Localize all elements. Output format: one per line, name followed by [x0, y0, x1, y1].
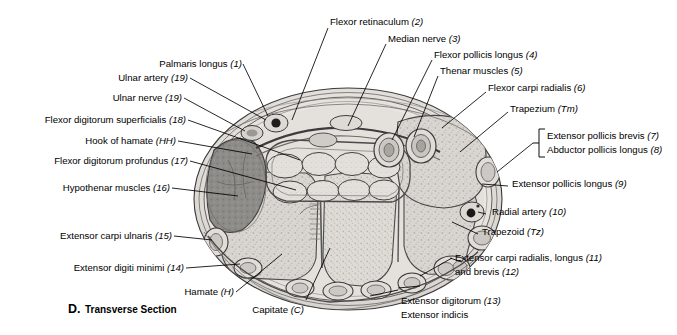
label-ulnar-artery[interactable]: Ulnar artery (19) — [0, 72, 188, 83]
label-trapezium[interactable]: Trapezium (Tm) — [510, 103, 578, 114]
caption-letter: D. — [68, 302, 81, 316]
label-capitate[interactable]: Capitate (C) — [204, 304, 304, 315]
label-radial-artery[interactable]: Radial artery (10) — [492, 206, 566, 217]
label-extensor-digiti-minimi[interactable]: Extensor digiti minimi (14) — [0, 262, 184, 273]
label-median-nerve[interactable]: Median nerve (3) — [388, 33, 461, 44]
transverse-section-illustration — [0, 0, 677, 335]
flexor-pollicis-longus-tendon — [374, 133, 404, 167]
label-abductor-pollicis-longus[interactable]: Abductor pollicis longus (8) — [547, 144, 662, 155]
ulnar-artery-vessel — [264, 114, 288, 132]
median-nerve — [309, 133, 337, 147]
label-trapezoid[interactable]: Trapezoid (Tz) — [482, 226, 544, 237]
label-hook-of-hamate[interactable]: Hook of hamate (HH) — [0, 135, 176, 146]
label-palmaris-longus[interactable]: Palmaris longus (1) — [40, 58, 242, 69]
label-thenar-muscles[interactable]: Thenar muscles (5) — [440, 65, 523, 76]
label-hamate[interactable]: Hamate (H) — [130, 286, 234, 297]
caption-text: Transverse Section — [85, 304, 177, 315]
label-flexor-pollicis-longus[interactable]: Flexor pollicis longus (4) — [434, 49, 537, 60]
label-ulnar-nerve[interactable]: Ulnar nerve (19) — [0, 92, 182, 103]
flexor-carpi-radialis-tendon — [406, 129, 436, 163]
ulnar-nerve-structure — [241, 126, 263, 141]
extensor-carpi-ulnaris-compartment — [204, 228, 228, 256]
label-flexor-retinaculum[interactable]: Flexor retinaculum (2) — [330, 16, 423, 27]
palmaris-longus-tendon — [330, 116, 362, 131]
figure-caption: D. Transverse Section — [68, 299, 177, 317]
label-extensor-digitorum[interactable]: Extensor digitorum (13) — [401, 295, 501, 306]
label-extensor-carpi-radialis-brevis[interactable]: and brevis (12) — [455, 266, 519, 277]
figure-panel: Palmaris longus (1) Ulnar artery (19) Ul… — [0, 0, 677, 335]
extensor-pollicis-bracket — [533, 129, 545, 157]
label-extensor-indicis[interactable]: Extensor indicis — [401, 309, 468, 320]
label-flexor-digitorum-profundus[interactable]: Flexor digitorum profundus (17) — [0, 155, 188, 166]
label-flexor-carpi-radialis[interactable]: Flexor carpi radialis (6) — [488, 82, 586, 93]
label-extensor-carpi-radialis-longus[interactable]: Extensor carpi radialis, longus (11) — [455, 252, 602, 263]
radial-artery-vessel — [460, 202, 484, 222]
label-extensor-carpi-ulnaris[interactable]: Extensor carpi ulnaris (15) — [0, 230, 172, 241]
label-extensor-pollicis-brevis[interactable]: Extensor pollicis brevis (7) — [547, 130, 659, 141]
extensor-digiti-minimi-compartment — [234, 258, 262, 278]
label-hypothenar-muscles[interactable]: Hypothenar muscles (16) — [0, 182, 170, 193]
label-flexor-digitorum-superficialis[interactable]: Flexor digitorum superficialis (18) — [0, 114, 186, 125]
extensor-pollicis-brevis-compartment — [476, 157, 500, 187]
label-extensor-pollicis-longus[interactable]: Extensor pollicis longus (9) — [512, 178, 627, 189]
